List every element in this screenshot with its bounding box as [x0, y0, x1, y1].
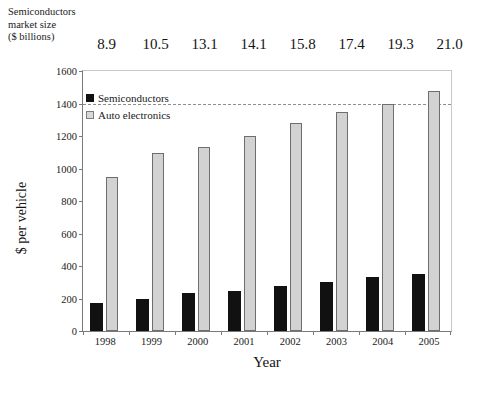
bar-semiconductors — [182, 293, 194, 332]
market-size-value: 8.9 — [82, 34, 131, 56]
x-tick-mark — [175, 331, 176, 335]
bar-auto-electronics — [244, 136, 256, 331]
x-tick-label: 2005 — [406, 336, 452, 347]
bar-group — [405, 71, 451, 331]
x-tick-mark — [129, 331, 130, 335]
market-size-value: 21.0 — [425, 34, 474, 56]
bar-semiconductors — [228, 291, 240, 331]
x-tick-label: 2000 — [175, 336, 221, 347]
market-size-value: 17.4 — [327, 34, 376, 56]
bar-semiconductors — [366, 277, 378, 331]
x-tick-label: 2002 — [267, 336, 313, 347]
x-tick-label: 2003 — [313, 336, 359, 347]
bar-semiconductors — [90, 303, 102, 331]
chart-legend: Semiconductors Auto electronics — [86, 90, 226, 124]
legend-item-semiconductors: Semiconductors — [86, 90, 226, 105]
bar-auto-electronics — [152, 153, 164, 331]
header-annotation-block: Semiconductors market size ($ billions) … — [0, 0, 479, 62]
legend-swatch-icon — [86, 111, 94, 119]
caption-line-1: Semiconductors — [8, 6, 94, 19]
x-tick-mark — [313, 331, 314, 335]
bar-semiconductors — [320, 282, 332, 331]
x-tick-label: 2004 — [360, 336, 406, 347]
x-tick-label: 1999 — [128, 336, 174, 347]
x-axis-title: Year — [82, 354, 452, 371]
bar-auto-electronics — [336, 112, 348, 331]
market-size-value: 15.8 — [278, 34, 327, 56]
x-tick-mark — [83, 331, 84, 335]
x-tick-mark — [450, 331, 451, 335]
bar-auto-electronics — [106, 177, 118, 331]
bar-semiconductors — [412, 274, 424, 331]
x-tick-label: 1998 — [82, 336, 128, 347]
bar-group — [313, 71, 359, 331]
caption-line-2: market size — [8, 19, 94, 32]
market-size-value: 13.1 — [180, 34, 229, 56]
legend-swatch-icon — [86, 94, 94, 102]
market-size-value-row: 8.9 10.5 13.1 14.1 15.8 17.4 19.3 21.0 — [82, 34, 474, 56]
legend-item-auto-electronics: Auto electronics — [86, 107, 226, 122]
x-tick-mark — [221, 331, 222, 335]
bar-auto-electronics — [382, 104, 394, 332]
x-axis-tick-labels: 1998 1999 2000 2001 2002 2003 2004 2005 — [82, 336, 452, 347]
market-size-value: 10.5 — [131, 34, 180, 56]
legend-label: Semiconductors — [98, 92, 169, 104]
bar-auto-electronics — [290, 123, 302, 331]
bar-semiconductors — [136, 299, 148, 332]
bar-auto-electronics — [428, 91, 440, 332]
bar-group — [267, 71, 313, 331]
x-tick-mark — [267, 331, 268, 335]
bar-group — [221, 71, 267, 331]
bar-auto-electronics — [198, 147, 210, 331]
legend-label: Auto electronics — [98, 109, 170, 121]
x-tick-label: 2001 — [221, 336, 267, 347]
market-size-value: 14.1 — [229, 34, 278, 56]
x-tick-mark — [405, 331, 406, 335]
bar-group — [359, 71, 405, 331]
bar-chart: $ per vehicle 02004006008001000120014001… — [0, 62, 479, 393]
x-tick-mark — [359, 331, 360, 335]
y-axis-title: $ per vehicle — [14, 158, 30, 278]
bar-semiconductors — [274, 286, 286, 331]
market-size-value: 19.3 — [376, 34, 425, 56]
